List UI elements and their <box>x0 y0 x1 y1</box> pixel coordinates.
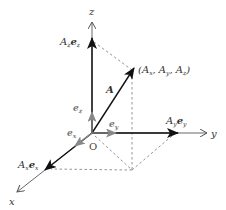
y-component-label: Ayey <box>165 115 187 128</box>
axes <box>17 22 207 192</box>
dashed-ground-to-y <box>132 135 173 170</box>
ez-label: ez <box>73 103 83 114</box>
origin-label: O <box>89 141 97 152</box>
point-label: (Ax, Ay, Az) <box>138 64 190 77</box>
dashed-ground-to-x <box>51 169 132 170</box>
dashed-z-to-point <box>94 42 132 70</box>
dashed-origin-to-ground <box>95 136 132 170</box>
vector-A-label: A <box>105 84 114 95</box>
ex-label: ex <box>67 128 77 139</box>
ey-label: ey <box>109 119 119 131</box>
y-axis-label: y <box>210 128 217 139</box>
component-vectors <box>45 38 178 170</box>
x-component-label: Axex <box>17 159 39 171</box>
z-component-label: Azez <box>59 36 81 48</box>
vector-diagram: z y x O ez ey ex Azez Ayey Axex A (Ax, A… <box>0 0 226 210</box>
z-axis-label: z <box>88 6 95 17</box>
x-axis-label: x <box>9 196 15 207</box>
